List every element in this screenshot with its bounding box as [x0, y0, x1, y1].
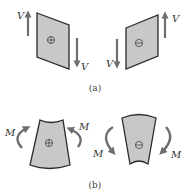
shear-label: V [172, 13, 181, 24]
panel-caption-b: (b) [89, 180, 102, 190]
shear-moment-sign-diagram: V V V V (a) M M M [0, 0, 189, 191]
shear-label: V [17, 10, 26, 21]
negative-moment-element: M M [92, 115, 182, 165]
shear-label: V [106, 58, 115, 69]
moment-label: M [92, 148, 104, 159]
shear-label: V [81, 61, 90, 72]
plus-sign-icon [45, 139, 52, 146]
moment-element-body [30, 120, 70, 169]
moment-element-body [122, 115, 156, 165]
positive-moment-element: M M [4, 120, 90, 169]
moment-label: M [170, 149, 182, 160]
plus-sign-icon [47, 36, 54, 43]
positive-shear-element: V V [17, 10, 90, 72]
shear-element-body [126, 15, 158, 69]
shear-element-body [37, 13, 69, 69]
moment-arrow-icon [106, 127, 113, 152]
panel-caption-a: (a) [89, 83, 101, 93]
moment-label: M [4, 127, 16, 138]
moment-arrow-icon [18, 128, 27, 148]
moment-arrow-icon [162, 127, 170, 152]
negative-shear-element: V V [106, 13, 181, 69]
moment-label: M [78, 121, 90, 132]
